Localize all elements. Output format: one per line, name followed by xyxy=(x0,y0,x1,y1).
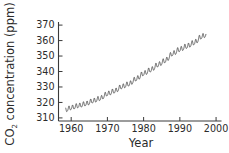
y-tick-label: 370 xyxy=(36,19,54,30)
y-axis-title-main: CO xyxy=(3,129,17,146)
y-tick-label: 360 xyxy=(36,35,54,46)
y-axis-title-rest: concentration (ppm) xyxy=(3,2,17,124)
y-tick-label: 310 xyxy=(36,112,54,123)
chart-canvas: 310320330340350360370 196019701980199020… xyxy=(0,0,229,153)
y-axis-title: CO2 concentration (ppm) xyxy=(3,2,19,145)
y-tick-label: 340 xyxy=(36,66,54,77)
co2-concentration-chart: 310320330340350360370 196019701980199020… xyxy=(0,0,229,153)
x-tick-label: 1960 xyxy=(59,123,83,134)
x-tick-label: 1990 xyxy=(168,123,192,134)
y-axis-tick-labels: 310320330340350360370 xyxy=(36,19,54,123)
x-tick-label: 1970 xyxy=(95,123,119,134)
y-tick-label: 330 xyxy=(36,81,54,92)
y-tick-label: 350 xyxy=(36,50,54,61)
x-axis-title: Year xyxy=(128,136,154,150)
x-tick-label: 2000 xyxy=(204,123,228,134)
x-tick-label: 1980 xyxy=(131,123,155,134)
y-tick-label: 320 xyxy=(36,97,54,108)
